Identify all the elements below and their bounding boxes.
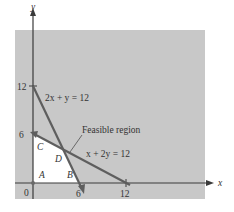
tick-label-x12: 12 — [120, 189, 130, 199]
tick-label-y12: 12 — [17, 82, 27, 92]
vertex-label-c: C — [37, 142, 44, 152]
tick-label-x6: 6 — [76, 189, 81, 199]
vertex-label-b: B — [67, 170, 73, 180]
equation-label-2: x + 2y = 12 — [86, 149, 130, 159]
x-axis-arrow-icon — [206, 180, 214, 186]
tick-label-origin: 0 — [24, 188, 29, 198]
origin-point — [31, 181, 35, 185]
y-axis-label: y — [30, 2, 36, 12]
vertex-label-d: D — [54, 154, 62, 164]
vertex-label-a: A — [38, 170, 45, 180]
feasible-region-label: Feasible region — [82, 125, 141, 135]
x-axis-label: x — [217, 178, 223, 188]
tick-label-y6: 6 — [19, 130, 24, 140]
equation-label-1: 2x + y = 12 — [45, 93, 89, 103]
feasible-region-diagram: y x 12 6 0 6 12 2x + y = 12 x + 2y = 12 … — [0, 0, 234, 212]
